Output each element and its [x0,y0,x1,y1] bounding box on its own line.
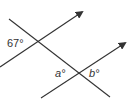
angle-b-label-text: b° [89,67,100,79]
lower-parallel-line [41,43,125,98]
diagram: 67° a° b° [0,0,127,105]
angle-a-label-text: a° [55,67,66,79]
angle-67-label: 67° [7,37,24,49]
angle-a-label: a° [55,67,66,79]
angle-b-label: b° [89,67,100,79]
